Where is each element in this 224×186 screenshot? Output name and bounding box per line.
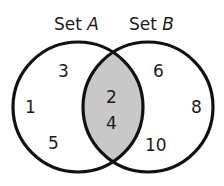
- intersection-element: 4: [106, 113, 117, 133]
- intersection-element: 2: [106, 87, 117, 107]
- venn-diagram: Set A Set B 3 1 5 2 4 6 8 10: [0, 0, 224, 186]
- set-a-element: 1: [25, 97, 36, 117]
- set-b-element: 6: [153, 61, 164, 81]
- set-b-label-prefix: Set: [129, 14, 162, 34]
- set-b-label-var: B: [162, 14, 174, 34]
- set-a-element: 5: [48, 133, 59, 153]
- set-a-element: 3: [58, 61, 69, 81]
- set-a-label-var: A: [86, 14, 99, 34]
- set-b-element: 8: [191, 97, 202, 117]
- set-a-label-prefix: Set: [54, 14, 87, 34]
- set-b-element: 10: [145, 135, 167, 155]
- set-a-label: Set A: [54, 14, 99, 34]
- set-b-label: Set B: [129, 14, 174, 34]
